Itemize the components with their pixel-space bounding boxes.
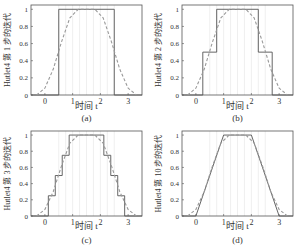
y-tick-label: 0 (25, 213, 29, 221)
panel-d: 012300.20.40.60.81时间 t(d)Hutlet4 第 10 步的… (153, 131, 293, 245)
y-tick-label: 0 (25, 92, 29, 100)
x-tick-label: 2 (98, 218, 102, 227)
y-axis-label: Hutlet4 第 2 步的迭代 (153, 13, 163, 87)
y-tick-label: 0.6 (19, 40, 28, 48)
x-tick-label: 1 (222, 218, 226, 227)
x-tick-label: 1 (71, 97, 75, 106)
y-tick-label: 0.2 (19, 74, 28, 82)
panel-caption: (c) (82, 235, 92, 245)
panel-c: 012300.20.40.60.81时间 t(c)Hutlet4 第 3 步的迭… (2, 131, 142, 245)
y-axis-label: Hutlet4 第 3 步的迭代 (2, 137, 12, 211)
panel-caption: (a) (82, 113, 92, 123)
y-tick-label: 1 (25, 6, 29, 14)
panel-caption: (b) (232, 113, 243, 123)
y-tick-label: 0.4 (19, 57, 28, 65)
x-axis-label: 时间 t (226, 100, 249, 111)
y-tick-label: 0.8 (170, 148, 179, 156)
x-tick-label: 3 (126, 97, 130, 106)
y-tick-label: 0.4 (170, 180, 179, 188)
y-tick-label: 0.8 (19, 148, 28, 156)
y-tick-label: 0.2 (19, 196, 28, 204)
y-tick-label: 0.2 (170, 74, 179, 82)
y-tick-label: 0 (176, 213, 180, 221)
x-axis-label: 时间 t (75, 100, 98, 111)
y-axis-label: Hutlet4 第 1 步的迭代 (2, 13, 12, 87)
x-tick-label: 0 (194, 218, 198, 227)
x-tick-label: 1 (222, 97, 226, 106)
y-tick-label: 0 (176, 92, 180, 100)
y-tick-label: 1 (176, 6, 180, 14)
grid-lines (210, 131, 266, 216)
x-tick-label: 3 (277, 97, 281, 106)
y-tick-label: 0.6 (170, 40, 179, 48)
x-tick-label: 2 (249, 218, 253, 227)
y-tick-label: 0.8 (19, 23, 28, 31)
y-tick-label: 0.4 (170, 57, 179, 65)
grid-lines (210, 5, 266, 95)
y-tick-label: 0.8 (170, 23, 179, 31)
y-tick-label: 0.4 (19, 180, 28, 188)
x-tick-label: 3 (126, 218, 130, 227)
x-tick-label: 2 (98, 97, 102, 106)
x-tick-label: 0 (194, 97, 198, 106)
panel-b: 012300.20.40.60.81时间 t(b)Hutlet4 第 2 步的迭… (153, 5, 293, 123)
grid-lines (59, 131, 115, 216)
y-tick-label: 0.2 (170, 196, 179, 204)
y-tick-label: 1 (176, 132, 180, 140)
y-tick-label: 0.6 (170, 164, 179, 172)
grid-lines (59, 5, 115, 95)
y-tick-label: 1 (25, 132, 29, 140)
panel-a: 012300.20.40.60.81时间 t(a)Hutlet4 第 1 步的迭… (2, 5, 142, 123)
x-axis-label: 时间 t (75, 220, 98, 231)
x-tick-label: 1 (71, 218, 75, 227)
panel-caption: (d) (232, 235, 243, 245)
figure: 012300.20.40.60.81时间 t(a)Hutlet4 第 1 步的迭… (0, 0, 298, 251)
x-axis-label: 时间 t (226, 220, 249, 231)
x-tick-label: 2 (249, 97, 253, 106)
x-tick-label: 3 (277, 218, 281, 227)
y-tick-label: 0.6 (19, 164, 28, 172)
x-tick-label: 0 (43, 97, 47, 106)
y-axis-label: Hutlet4 第 10 步的迭代 (153, 135, 163, 213)
figure-canvas: 012300.20.40.60.81时间 t(a)Hutlet4 第 1 步的迭… (0, 0, 298, 251)
x-tick-label: 0 (43, 218, 47, 227)
